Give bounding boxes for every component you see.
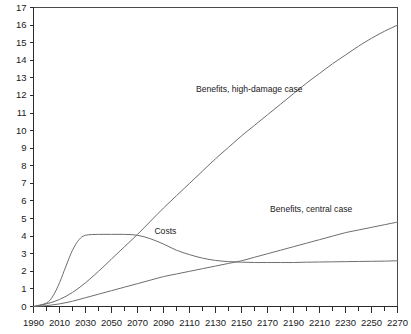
y-tick-label: 10: [16, 125, 27, 136]
y-tick-label: 17: [16, 2, 27, 13]
y-tick-label: 6: [21, 195, 26, 206]
x-tick-label: 2030: [75, 317, 96, 328]
x-tick-label: 2250: [361, 317, 382, 328]
x-tick-label: 2050: [101, 317, 122, 328]
y-tick-label: 12: [16, 89, 27, 100]
y-tick-label: 16: [16, 19, 27, 30]
y-tick-label: 9: [21, 142, 26, 153]
x-tick-label: 2110: [179, 317, 199, 328]
x-tick-label: 2150: [231, 317, 252, 328]
y-tick-label: 13: [16, 72, 27, 83]
y-tick-label: 4: [21, 230, 26, 241]
y-tick-label: 5: [21, 213, 26, 224]
y-tick-label: 0: [21, 301, 26, 312]
x-tick-label: 2130: [205, 317, 226, 328]
x-tick-label: 2210: [309, 317, 330, 328]
series-line-0: [34, 25, 398, 306]
y-tick-label: 1: [21, 283, 26, 294]
x-tick-label: 2190: [283, 317, 304, 328]
line-chart: 0123456789101112131415161719902010203020…: [0, 0, 411, 334]
y-tick-label: 8: [21, 160, 26, 171]
x-tick-label: 2270: [387, 317, 408, 328]
x-tick-label: 2170: [257, 317, 278, 328]
series-line-2: [34, 234, 398, 306]
y-tick-label: 2: [21, 265, 26, 276]
x-tick-label: 2230: [335, 317, 356, 328]
x-tick-label: 1990: [23, 317, 44, 328]
chart-container: 0123456789101112131415161719902010203020…: [0, 0, 411, 334]
y-tick-label: 15: [16, 37, 27, 48]
x-tick-label: 2010: [49, 317, 70, 328]
x-tick-label: 2070: [127, 317, 148, 328]
y-tick-label: 3: [21, 248, 26, 259]
y-tick-label: 14: [16, 54, 27, 65]
y-tick-label: 7: [21, 177, 26, 188]
series-label-1: Benefits, central case: [270, 204, 352, 214]
y-tick-label: 11: [17, 107, 27, 118]
series-label-0: Benefits, high-damage case: [196, 84, 303, 94]
series-label-2: Costs: [154, 226, 176, 236]
x-tick-label: 2090: [153, 317, 174, 328]
